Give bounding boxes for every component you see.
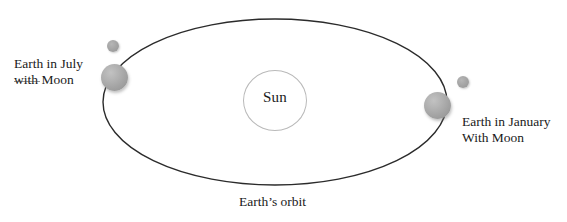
orbit-diagram: Sun Earth in July with Moon Earth in Jan…: [0, 0, 567, 222]
earth-orbit-label: Earth’s orbit: [239, 194, 306, 210]
moon-july-sphere: [107, 40, 119, 52]
earth-january-label-line2: With Moon: [462, 130, 550, 146]
earth-january-label-line1: Earth in January: [462, 114, 550, 130]
earth-july-label-line1: Earth in July: [14, 56, 83, 72]
moon-january-sphere: [457, 76, 469, 88]
earth-july-label-line2: with Moon: [14, 72, 83, 88]
earth-january-sphere: [424, 92, 451, 119]
earth-july-label: Earth in July with Moon: [14, 56, 83, 88]
earth-july-sphere: [101, 64, 128, 91]
earth-january-label: Earth in January With Moon: [462, 114, 550, 146]
sun-label: Sun: [243, 89, 307, 106]
